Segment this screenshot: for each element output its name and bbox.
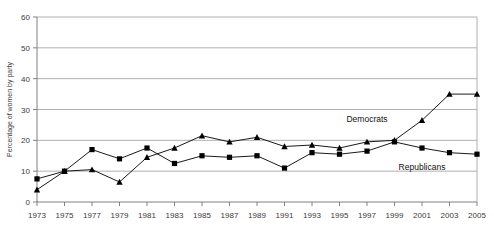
x-axis-tick-label: 1985 bbox=[193, 211, 211, 220]
line-chart: 0102030405060197319751977197919811983198… bbox=[0, 0, 494, 246]
data-point-republicans bbox=[309, 150, 314, 155]
data-point-republicans bbox=[34, 176, 39, 181]
x-axis-tick-label: 1981 bbox=[138, 211, 156, 220]
series-annotation-republicans: Republicans bbox=[399, 162, 446, 172]
x-axis-tick-label: 1975 bbox=[56, 211, 74, 220]
series-line-democrats bbox=[37, 94, 477, 190]
data-point-democrats bbox=[199, 133, 205, 139]
data-point-republicans bbox=[364, 149, 369, 154]
x-axis-tick-label: 1983 bbox=[166, 211, 184, 220]
data-point-democrats bbox=[254, 134, 260, 140]
y-axis-title: Percentage of women by party bbox=[6, 62, 14, 157]
data-point-republicans bbox=[419, 145, 424, 150]
data-point-republicans bbox=[447, 150, 452, 155]
x-axis-tick-label: 2005 bbox=[468, 211, 486, 220]
x-axis-tick-label: 1987 bbox=[221, 211, 239, 220]
y-axis-tick-label: 10 bbox=[21, 167, 30, 176]
data-point-republicans bbox=[282, 165, 287, 170]
x-axis-tick-label: 1973 bbox=[28, 211, 46, 220]
chart-container: 0102030405060197319751977197919811983198… bbox=[0, 0, 494, 246]
data-point-republicans bbox=[254, 153, 259, 158]
x-axis-tick-label: 1989 bbox=[248, 211, 266, 220]
series-line-republicans bbox=[37, 142, 477, 179]
data-point-republicans bbox=[144, 145, 149, 150]
x-axis-tick-label: 1993 bbox=[303, 211, 321, 220]
x-axis-tick-label: 2001 bbox=[413, 211, 431, 220]
x-axis-tick-label: 2003 bbox=[441, 211, 459, 220]
data-point-democrats bbox=[171, 145, 177, 151]
data-point-republicans bbox=[474, 152, 479, 157]
data-point-republicans bbox=[89, 147, 94, 152]
x-axis-tick-label: 1995 bbox=[331, 211, 349, 220]
y-axis-tick-label: 60 bbox=[21, 13, 30, 22]
y-axis-tick-label: 0 bbox=[26, 198, 31, 207]
y-axis-tick-label: 30 bbox=[21, 106, 30, 115]
y-axis-tick-label: 20 bbox=[21, 136, 30, 145]
data-point-republicans bbox=[62, 169, 67, 174]
x-axis-tick-label: 1979 bbox=[111, 211, 129, 220]
x-axis-tick-label: 1991 bbox=[276, 211, 294, 220]
x-axis-tick-label: 1997 bbox=[358, 211, 376, 220]
data-point-republicans bbox=[392, 139, 397, 144]
x-axis-tick-label: 1977 bbox=[83, 211, 101, 220]
x-axis-tick-label: 1999 bbox=[386, 211, 404, 220]
series-annotation-democrats: Democrats bbox=[346, 114, 387, 124]
data-point-republicans bbox=[199, 153, 204, 158]
data-point-democrats bbox=[144, 154, 150, 160]
y-axis-tick-label: 40 bbox=[21, 75, 30, 84]
data-point-democrats bbox=[34, 187, 40, 193]
data-point-republicans bbox=[172, 161, 177, 166]
y-axis-tick-label: 50 bbox=[21, 44, 30, 53]
data-point-republicans bbox=[117, 156, 122, 161]
data-point-republicans bbox=[337, 152, 342, 157]
data-point-republicans bbox=[227, 155, 232, 160]
